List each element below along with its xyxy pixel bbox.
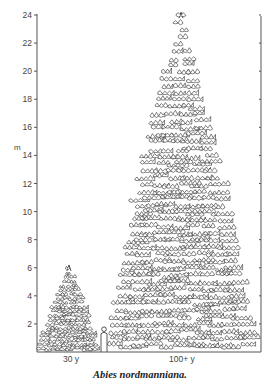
mature-tree-branch bbox=[211, 337, 224, 341]
mature-tree-branch bbox=[206, 176, 220, 181]
mature-tree-drawing bbox=[103, 12, 260, 349]
mature-tree-branch bbox=[187, 195, 203, 200]
mature-tree-branch bbox=[224, 287, 244, 292]
young-tree-branch bbox=[70, 280, 76, 283]
mature-tree-branch bbox=[140, 158, 155, 164]
mature-tree-branch bbox=[117, 284, 131, 289]
mature-tree-branch bbox=[227, 279, 249, 285]
young-tree-age-label: 30 y bbox=[63, 354, 80, 364]
axis-unit-label: m bbox=[14, 143, 21, 152]
mature-tree-branch bbox=[221, 237, 239, 242]
mature-tree-branch bbox=[204, 230, 220, 236]
mature-tree-branch bbox=[157, 95, 172, 100]
human-head bbox=[102, 327, 107, 332]
young-tree-branch bbox=[82, 313, 91, 317]
y-tick-label: 20 bbox=[23, 66, 33, 76]
human-body bbox=[101, 332, 107, 352]
right-height-axis bbox=[259, 15, 261, 352]
mature-tree-branch bbox=[187, 97, 203, 102]
mature-tree-branch bbox=[218, 218, 232, 223]
mature-tree-branch bbox=[224, 258, 237, 263]
mature-tree-branch bbox=[200, 294, 219, 300]
young-tree-branch bbox=[59, 285, 64, 289]
young-tree-branch bbox=[63, 279, 71, 283]
mature-tree-branch bbox=[123, 329, 138, 334]
mature-tree-branch bbox=[194, 117, 210, 122]
mature-tree-branch bbox=[215, 196, 230, 201]
mature-tree-branch bbox=[175, 159, 193, 164]
mature-tree-branch bbox=[224, 264, 243, 270]
young-tree-branch bbox=[66, 272, 71, 275]
young-tree-branch bbox=[77, 296, 85, 299]
y-tick-label: 4 bbox=[27, 291, 32, 301]
y-tick-label: 2 bbox=[27, 319, 32, 329]
mature-tree-branch bbox=[209, 181, 231, 187]
young-tree-branch bbox=[37, 347, 46, 350]
mature-tree-branch bbox=[122, 279, 135, 284]
y-tick-label: 22 bbox=[23, 38, 33, 48]
mature-tree-branch bbox=[208, 190, 229, 195]
mature-tree-branch bbox=[180, 175, 194, 180]
mature-tree-branch bbox=[144, 341, 163, 346]
mature-tree-branch bbox=[154, 168, 168, 173]
mature-tree-branch bbox=[171, 154, 187, 159]
mature-tree-branch bbox=[169, 285, 186, 290]
mature-tree-branch bbox=[174, 83, 186, 88]
y-tick-label: 14 bbox=[23, 150, 33, 160]
mature-tree-branch bbox=[135, 175, 155, 180]
mature-tree-branch bbox=[141, 181, 154, 187]
young-tree-branch bbox=[66, 266, 70, 269]
young-tree-branch bbox=[61, 301, 67, 304]
young-tree-branch bbox=[67, 288, 74, 291]
mature-tree-branch bbox=[225, 335, 246, 340]
y-tick-label: 24 bbox=[23, 10, 33, 20]
mature-tree-branch bbox=[187, 79, 200, 83]
mature-tree-branch bbox=[163, 322, 184, 327]
mature-tree-branch bbox=[195, 125, 213, 131]
young-tree-branch bbox=[88, 347, 99, 351]
mature-tree-branch bbox=[187, 90, 199, 96]
mature-tree-branch bbox=[158, 90, 174, 95]
mature-tree-branch bbox=[218, 224, 236, 230]
mature-tree-branch bbox=[140, 259, 153, 264]
mature-tree-branch bbox=[149, 120, 165, 125]
mature-tree-branch bbox=[178, 34, 187, 39]
mature-tree-branch bbox=[144, 292, 167, 297]
young-tree-branch bbox=[49, 340, 56, 344]
mature-tree-branch bbox=[147, 271, 160, 276]
mature-tree-branch bbox=[164, 110, 180, 116]
mature-tree-branch bbox=[206, 152, 219, 157]
mature-tree-branch bbox=[162, 68, 172, 74]
mature-tree-branch bbox=[199, 218, 217, 223]
mature-tree-branch bbox=[220, 232, 236, 238]
y-tick-label: 10 bbox=[23, 207, 33, 217]
mature-tree-branch bbox=[140, 222, 158, 227]
mature-tree-branch bbox=[150, 112, 165, 117]
mature-tree-branch bbox=[161, 148, 173, 153]
figure-caption: Abies nordmanniana. bbox=[0, 369, 280, 380]
mature-tree-branch bbox=[199, 146, 212, 151]
young-tree-branch bbox=[82, 318, 89, 322]
mature-tree-branch bbox=[224, 252, 239, 256]
mature-tree-branch bbox=[183, 48, 191, 53]
mature-tree-branch bbox=[173, 76, 184, 81]
mature-tree-branch bbox=[177, 168, 196, 173]
mature-tree-branch bbox=[170, 266, 185, 271]
mature-tree-branch bbox=[220, 322, 234, 327]
mature-tree-branch bbox=[178, 299, 191, 304]
young-tree-branch bbox=[66, 318, 77, 322]
mature-tree-branch bbox=[156, 250, 170, 254]
mature-tree-branch bbox=[202, 223, 215, 228]
mature-tree-branch bbox=[187, 84, 200, 89]
young-tree-branch bbox=[70, 275, 77, 279]
mature-tree-branch bbox=[241, 342, 255, 347]
mature-tree-branch bbox=[184, 271, 203, 276]
mature-tree-branch bbox=[177, 315, 191, 320]
mature-tree-branch bbox=[129, 294, 145, 299]
mature-tree-branch bbox=[136, 329, 154, 334]
y-tick-label: 12 bbox=[23, 179, 33, 189]
young-tree-branch bbox=[73, 284, 78, 287]
mature-tree-branch bbox=[231, 305, 246, 311]
mature-tree-branch bbox=[160, 76, 173, 81]
mature-tree-branch bbox=[170, 58, 179, 63]
